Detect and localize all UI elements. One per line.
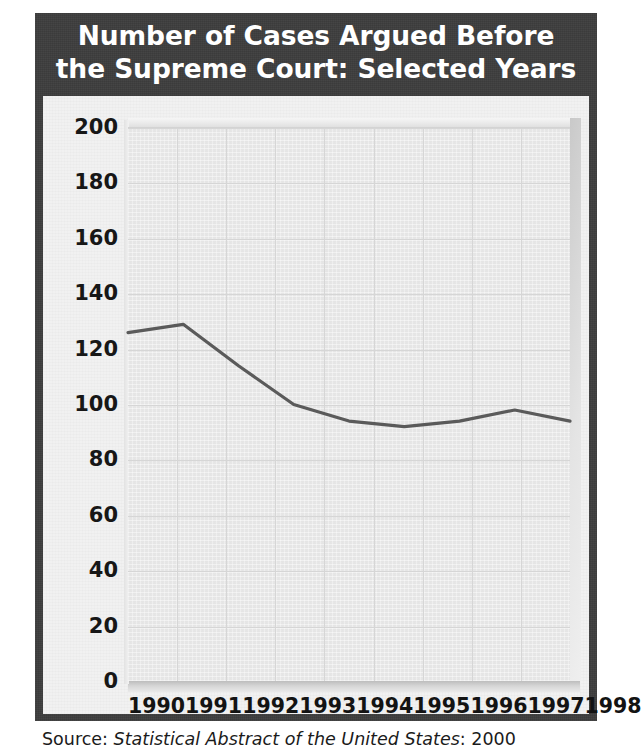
plot-bevel-right xyxy=(570,118,581,684)
y-axis: 200180160140120100806040200 xyxy=(43,0,118,755)
x-tick-label: 1998 xyxy=(585,694,642,722)
x-tick-label: 1991 xyxy=(185,694,242,722)
x-tick-label: 1993 xyxy=(299,694,356,722)
x-axis: 199019911992199319941995199619971998 xyxy=(128,694,580,722)
x-tick-label: 1994 xyxy=(356,694,413,722)
x-tick-label: 1997 xyxy=(527,694,584,722)
y-tick-label: 40 xyxy=(56,558,118,582)
source-suffix: : 2000 xyxy=(460,729,516,749)
x-tick-label: 1992 xyxy=(242,694,299,722)
title-line-2: the Supreme Court: Selected Years xyxy=(56,52,576,85)
page-title: Number of Cases Argued Before the Suprem… xyxy=(35,13,597,91)
y-tick-label: 60 xyxy=(56,503,118,527)
y-tick-label: 160 xyxy=(56,226,118,250)
y-tick-label: 20 xyxy=(56,614,118,638)
y-tick-label: 100 xyxy=(56,392,118,416)
source-publication: Statistical Abstract of the United State… xyxy=(114,729,460,749)
y-tick-label: 120 xyxy=(56,337,118,361)
x-tick-label: 1996 xyxy=(470,694,527,722)
y-tick-label: 200 xyxy=(56,115,118,139)
title-line-1: Number of Cases Argued Before xyxy=(78,19,555,52)
y-tick-label: 80 xyxy=(56,447,118,471)
plot-bevel-bottom xyxy=(128,681,580,692)
data-line xyxy=(128,324,570,426)
y-tick-label: 0 xyxy=(56,669,118,693)
x-tick-label: 1995 xyxy=(413,694,470,722)
source-prefix: Source: xyxy=(42,729,114,749)
y-tick-label: 180 xyxy=(56,170,118,194)
data-line-svg xyxy=(128,128,570,681)
plot-area xyxy=(128,127,570,681)
x-tick-label: 1990 xyxy=(128,694,185,722)
source-note: Source: Statistical Abstract of the Unit… xyxy=(42,729,516,749)
y-tick-label: 140 xyxy=(56,281,118,305)
